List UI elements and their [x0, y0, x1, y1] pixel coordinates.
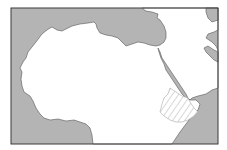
map-figure [0, 0, 227, 150]
